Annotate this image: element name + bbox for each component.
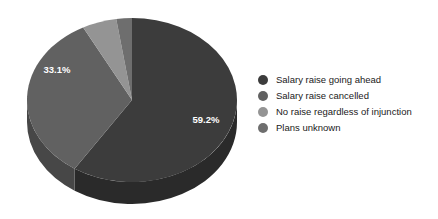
chart-legend: Salary raise going ahead Salary raise ca… xyxy=(258,72,438,136)
legend-item-label: No raise regardless of injunction xyxy=(276,104,412,120)
legend-item[interactable]: Plans unknown xyxy=(258,120,438,136)
pie-label-salary-raise-cancelled: 33.1% xyxy=(44,64,71,75)
pie-top-face xyxy=(27,18,237,182)
pie-label-salary-raise-going-ahead: 59.2% xyxy=(193,114,220,125)
legend-color-swatch-icon xyxy=(258,91,268,101)
legend-item-label: Plans unknown xyxy=(276,120,340,136)
legend-color-swatch-icon xyxy=(258,75,268,85)
legend-color-swatch-icon xyxy=(258,123,268,133)
legend-item-label: Salary raise cancelled xyxy=(276,88,369,104)
legend-color-swatch-icon xyxy=(258,107,268,117)
legend-item[interactable]: Salary raise going ahead xyxy=(258,72,438,88)
legend-item[interactable]: No raise regardless of injunction xyxy=(258,104,438,120)
pie-chart-figure: 59.2% 33.1% Salary raise going ahead Sal… xyxy=(0,0,438,219)
legend-item-label: Salary raise going ahead xyxy=(276,72,381,88)
legend-item[interactable]: Salary raise cancelled xyxy=(258,88,438,104)
